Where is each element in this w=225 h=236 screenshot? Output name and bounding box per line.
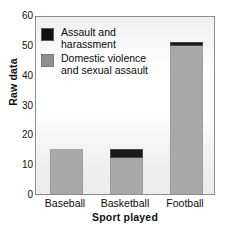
y-axis-tick-label: 50	[3, 41, 33, 51]
bar-chart: Raw data 6050403020100 Assault and haras…	[0, 0, 225, 236]
bar-segment	[50, 149, 83, 194]
x-axis-title: Sport played	[35, 211, 215, 223]
y-axis-tick-label: 20	[3, 130, 33, 140]
x-axis-tick-labels: BaseballBasketballFootball	[35, 197, 215, 211]
y-axis-tick-label: 10	[3, 160, 33, 170]
plot-area: Assault and harassmentDomestic violence …	[35, 16, 215, 195]
y-axis-tick-label: 30	[3, 101, 33, 111]
y-axis-tick-label: 40	[3, 71, 33, 81]
y-axis-tick-label: 60	[3, 11, 33, 21]
y-axis-tick-labels: 6050403020100	[2, 0, 33, 236]
legend-swatch-gray-icon	[41, 54, 54, 67]
bar-segment	[110, 149, 143, 158]
chart-legend: Assault and harassmentDomestic violence …	[41, 27, 191, 79]
y-axis-tick-label: 0	[3, 190, 33, 200]
bar-group	[110, 149, 143, 194]
x-axis-tick-label: Football	[155, 197, 215, 209]
legend-item: Assault and harassment	[41, 27, 191, 50]
bar-segment	[110, 158, 143, 194]
bar-group	[50, 149, 83, 194]
legend-item: Domestic violence and sexual assault	[41, 53, 191, 76]
legend-label: Domestic violence and sexual assault	[61, 53, 148, 76]
legend-swatch-black-icon	[41, 28, 54, 41]
legend-label: Assault and harassment	[61, 27, 116, 50]
x-axis-tick-label: Basketball	[95, 197, 155, 209]
x-axis-tick-label: Baseball	[35, 197, 95, 209]
